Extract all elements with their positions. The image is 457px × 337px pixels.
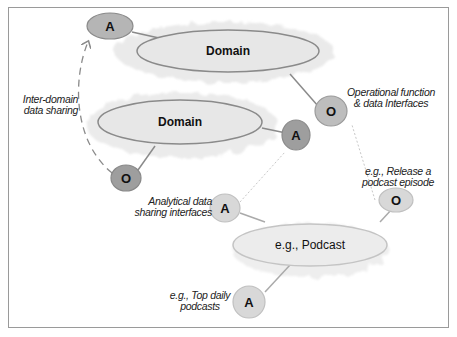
label-release-line2: podcast episode [358,177,438,188]
svg-text:A: A [291,128,301,143]
connector-domain-top-o1 [290,74,318,106]
node-a-top[interactable]: A [87,13,133,39]
svg-text:A: A [105,19,115,34]
domain-top-ellipse[interactable]: Domain [137,30,319,72]
instance-link-o3-o1 [352,125,375,200]
label-inter-domain-line2: data sharing [20,105,78,116]
node-a-podcast[interactable]: A [233,286,265,318]
domain-middle-ellipse[interactable]: Domain [98,100,262,144]
node-a-analytical[interactable]: A [210,194,240,222]
svg-text:O: O [391,193,401,208]
instance-link-a3-a2 [240,152,285,202]
node-a-middle[interactable]: A [282,120,310,150]
node-o-middle[interactable]: O [111,165,141,191]
label-analytical-line2: sharing interfaces [130,207,212,218]
connector-a3-podcast [240,213,265,222]
domain-podcast-ellipse[interactable]: e.g., Podcast [233,224,387,266]
label-analytical: Analytical data sharing interfaces [130,196,212,218]
svg-text:O: O [121,171,131,186]
label-inter-domain: Inter-domain data sharing [20,94,78,116]
label-top-daily-line2: podcasts [166,301,234,312]
domain-top-label: Domain [206,44,250,58]
svg-text:A: A [220,201,230,216]
svg-text:O: O [326,104,336,119]
domain-podcast-label: e.g., Podcast [275,238,346,252]
label-top-daily: e.g., Top daily podcasts [166,290,234,312]
svg-text:A: A [244,295,254,310]
label-operational-line2: & data Interfaces [336,98,446,109]
label-operational: Operational function & data Interfaces [336,87,446,109]
label-release-episode: e.g., Release a podcast episode [358,166,438,188]
node-o-podcast[interactable]: O [379,188,413,212]
domain-middle-label: Domain [158,115,202,129]
